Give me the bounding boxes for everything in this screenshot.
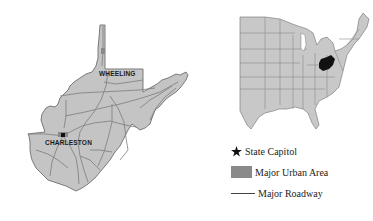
- urban-area-swatch: [231, 166, 252, 178]
- legend-item-major-urban-area: Major Urban Area: [231, 166, 328, 178]
- legend-label-major-roadway: Major Roadway: [258, 188, 323, 199]
- legend-item-major-roadway: Major Roadway: [231, 188, 323, 199]
- city-label-wheeling: WHEELING: [99, 70, 136, 77]
- roadway-line-icon: [231, 193, 255, 194]
- west-virginia-map: [0, 0, 190, 221]
- eastern-us-outline: [240, 13, 369, 129]
- west-virginia-outline: [28, 25, 188, 191]
- legend-label-state-capitol: State Capitol: [245, 146, 297, 157]
- us-locator-map: [235, 5, 373, 135]
- legend-item-state-capitol: State Capitol: [231, 146, 297, 157]
- city-label-charleston: CHARLESTON: [45, 139, 92, 146]
- capitol-marker-charleston: [61, 133, 65, 137]
- legend-label-major-urban-area: Major Urban Area: [255, 167, 328, 178]
- urban-area-wheeling: [101, 48, 105, 54]
- star-icon: [231, 146, 242, 157]
